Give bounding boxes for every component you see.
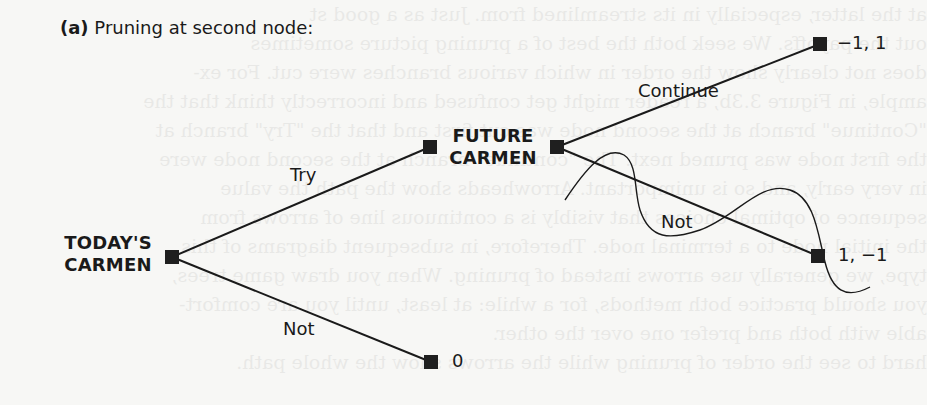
branch-label-not-root: Not xyxy=(283,318,315,339)
branch-label-continue: Continue xyxy=(638,80,719,101)
root-node-label: TODAY'S CARMEN xyxy=(58,232,158,276)
terminal-not-second xyxy=(811,249,825,263)
future-carmen-incoming-node xyxy=(423,140,437,154)
second-node xyxy=(550,140,564,154)
game-tree xyxy=(0,0,927,405)
terminal-not-root xyxy=(424,355,438,369)
branch-label-not-second: Not xyxy=(661,211,693,232)
branch-not-second xyxy=(557,147,818,256)
branch-label-try: Try xyxy=(290,164,316,185)
root-node xyxy=(165,250,179,264)
terminal-continue xyxy=(813,37,827,51)
branch-not-root xyxy=(172,257,431,362)
payoff-not-root: 0 xyxy=(452,350,463,371)
second-node-label: FUTURE CARMEN xyxy=(440,125,546,169)
payoff-not-second: 1, −1 xyxy=(838,244,887,265)
prune-wavy-line xyxy=(565,153,870,293)
payoff-continue: −1, 1 xyxy=(837,32,886,53)
